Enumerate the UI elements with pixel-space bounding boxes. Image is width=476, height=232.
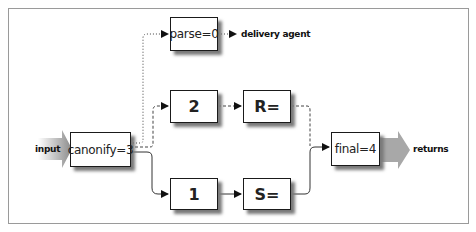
node-s: S= (243, 178, 291, 210)
node-r: R= (243, 90, 291, 123)
node-parse: parse=0 (170, 17, 218, 51)
returns-arrow-icon (380, 131, 410, 169)
node-1: 1 (170, 178, 218, 210)
node-2-label: 2 (188, 97, 199, 116)
node-parse-label: parse=0 (169, 27, 218, 41)
node-final: final=4 (331, 132, 380, 166)
node-s-label: S= (255, 185, 280, 204)
node-2: 2 (170, 90, 218, 123)
node-1-label: 1 (188, 185, 199, 204)
node-canonify-label: canonify=3 (68, 143, 134, 157)
input-label: input (35, 144, 60, 154)
node-r-label: R= (254, 97, 280, 116)
node-canonify: canonify=3 (70, 132, 131, 167)
returns-label: returns (413, 144, 448, 154)
delivery-agent-label: delivery agent (241, 29, 310, 39)
connector-lines (0, 0, 476, 232)
node-final-label: final=4 (335, 142, 376, 156)
